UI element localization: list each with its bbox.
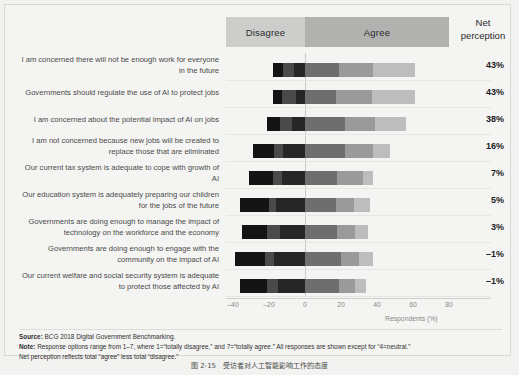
net-perception-value: 3% [452, 222, 504, 232]
bar-segment [273, 63, 284, 77]
bar-segment [305, 171, 337, 185]
net-perception-value: 7% [452, 168, 504, 178]
stacked-bar[interactable] [235, 252, 374, 266]
bar-segment [282, 90, 296, 104]
x-axis-tick: –40 [227, 301, 238, 308]
bar-segment [359, 252, 373, 266]
bar-segment [292, 117, 305, 131]
bar-segment [274, 144, 283, 158]
bar-segment [337, 171, 362, 185]
bar-segment [273, 90, 282, 104]
stacked-bar[interactable] [240, 198, 370, 212]
net-perception-value: 5% [452, 195, 504, 205]
statement-label: Our current welfare and social security … [19, 270, 219, 292]
stacked-bar[interactable] [267, 117, 406, 131]
net-perception-column-header: Net perception [452, 17, 514, 49]
x-axis-tick: 0 [303, 301, 307, 308]
bar-segment [283, 144, 305, 158]
bar-segment [305, 117, 345, 131]
stacked-bar[interactable] [253, 144, 390, 158]
bar-segment [267, 279, 278, 293]
bar-segment [267, 117, 280, 131]
bar-segment [294, 63, 305, 77]
bar-segment [339, 63, 373, 77]
statement-label: Governments are doing enough to manage t… [19, 216, 219, 238]
bar-segment [278, 279, 305, 293]
bar-segment [240, 198, 269, 212]
statement-label: I am concerned about the potential impac… [19, 114, 219, 125]
bar-segment [354, 198, 370, 212]
bar-segment [265, 252, 274, 266]
bar-segment [305, 279, 339, 293]
bar-segment [282, 171, 305, 185]
source-note: Source: BCG 2018 Digital Government Benc… [19, 332, 499, 342]
source-text: BCG 2018 Digital Government Benchmarking… [45, 333, 176, 340]
footnote-divider [19, 329, 502, 330]
net-perception-value: –1% [452, 249, 504, 259]
stacked-bar[interactable] [249, 171, 373, 185]
net-perception-value: –1% [452, 276, 504, 286]
bar-segment [267, 225, 280, 239]
note-line-1: Note: Response options range from 1–7, w… [19, 342, 499, 352]
statement-label: Governments should regulate the use of A… [19, 87, 219, 98]
x-axis-tick: 40 [373, 301, 381, 308]
bar-segment [305, 63, 339, 77]
stacked-bar[interactable] [273, 63, 415, 77]
figure-container: Disagree Agree Net perception I am conce… [0, 0, 519, 375]
legend-band-agree-label: Agree [364, 27, 390, 38]
bar-segment [235, 252, 266, 266]
bar-segment [363, 171, 374, 185]
net-perception-header-line1: Net [452, 17, 514, 30]
bar-segment [283, 63, 294, 77]
bar-segment [280, 225, 305, 239]
bar-segment [345, 117, 376, 131]
bar-segment [337, 225, 355, 239]
legend-band-disagree-label: Disagree [246, 27, 286, 38]
net-perception-value: 43% [452, 87, 504, 97]
bar-segment [274, 252, 305, 266]
statement-label: Our education system is adequately prepa… [19, 189, 219, 211]
note-label: Note: [19, 343, 35, 350]
bar-segment [341, 252, 359, 266]
bar-segment [336, 90, 372, 104]
net-perception-value: 16% [452, 141, 504, 151]
bar-segment [305, 144, 345, 158]
net-perception-value: 43% [452, 60, 504, 70]
bar-segment [339, 279, 355, 293]
chart-panel: Disagree Agree Net perception I am conce… [4, 4, 511, 356]
bar-segment [305, 252, 341, 266]
bar-segment [355, 279, 366, 293]
x-axis-line [226, 298, 491, 299]
net-perception-header-line2: perception [452, 30, 514, 43]
legend-band-agree: Agree [305, 17, 449, 47]
legend-band-disagree: Disagree [226, 17, 305, 47]
bar-segment [296, 90, 305, 104]
bar-segment [336, 198, 354, 212]
bar-segment [345, 144, 374, 158]
bar-segment [242, 225, 267, 239]
bar-segment [305, 90, 336, 104]
bar-segment [373, 63, 414, 77]
figure-caption: 图 2-15 受访者对人工智能影响工作的态度 [0, 360, 519, 370]
statement-label: Governments are doing enough to engage w… [19, 243, 219, 265]
bar-segment [305, 198, 336, 212]
statement-label: I am not concerned because new jobs will… [19, 135, 219, 157]
bar-segment [305, 225, 337, 239]
bar-segment [372, 90, 415, 104]
stacked-bar[interactable] [242, 225, 368, 239]
bar-segment [276, 198, 305, 212]
bar-segment [373, 144, 389, 158]
stacked-bar[interactable] [273, 90, 415, 104]
bar-segment [280, 117, 293, 131]
bar-segment [240, 279, 267, 293]
x-axis-tick: 20 [337, 301, 345, 308]
bar-segment [253, 144, 275, 158]
bar-segment [249, 171, 272, 185]
x-axis-tick: –20 [263, 301, 274, 308]
x-axis-tick: 60 [409, 301, 417, 308]
bar-segment [269, 198, 276, 212]
statement-label: I am concerned there will not be enough … [19, 54, 219, 76]
statement-label: Our current tax system is adequate to co… [19, 162, 219, 184]
stacked-bar[interactable] [240, 279, 366, 293]
net-perception-value: 38% [452, 114, 504, 124]
